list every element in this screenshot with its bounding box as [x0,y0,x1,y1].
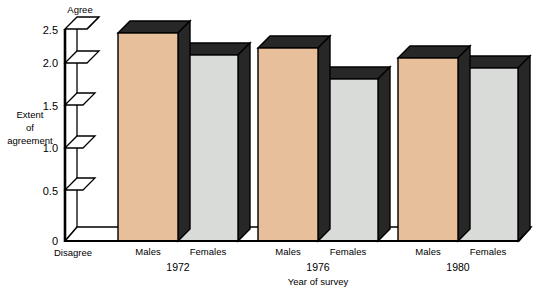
bar-front-face [258,48,318,241]
bar-label-females-1972: Females [190,246,227,257]
bar-side-face [518,56,530,241]
y-tick-label-2.0: 2.0 [43,57,58,69]
bar-chart: 2.5 2.0 1.5 1.0 0.5 0 Agree Disagree Ext… [0,0,541,288]
bar-side-face [178,21,190,241]
bar-front-face [118,33,178,241]
bar-group-1976 [258,36,390,241]
x-axis-labels: Males Females Males Females Males Female… [135,246,506,287]
bar-side-face [238,43,250,241]
bar-group-1972 [118,21,250,241]
y-tick-step-2.0 [65,51,99,63]
group-label-1972: 1972 [166,261,190,273]
y-axis-title-line-2: of [26,122,34,133]
bar-label-females-1976: Females [330,246,367,257]
y-axis-title-line-3: agreement [7,135,53,146]
y-tick-label-2.5: 2.5 [43,24,58,36]
bar-side-face [458,46,470,241]
bar-label-males-1972: Males [135,246,161,257]
y-tick-step-1.0 [65,136,95,148]
bar-label-males-1976: Males [275,246,301,257]
y-tick-step-0.5 [65,178,95,190]
bar-males-1972[interactable] [118,21,190,241]
bar-label-females-1980: Females [470,246,507,257]
y-tick-label-0: 0 [52,235,58,247]
y-axis: 2.5 2.0 1.5 1.0 0.5 0 Agree Disagree Ext… [7,4,99,258]
bar-males-1976[interactable] [258,36,330,241]
bar-males-1980[interactable] [398,46,470,241]
bar-front-face [398,58,458,241]
y-tick-label-1.5: 1.5 [43,100,58,112]
y-tick-label-0.5: 0.5 [43,185,58,197]
group-label-1980: 1980 [446,261,470,273]
x-axis-title: Year of survey [288,276,349,287]
y-axis-bottom-label: Disagree [54,247,92,258]
y-axis-title-line-1: Extent [17,109,44,120]
bar-side-face [378,67,390,241]
group-label-1976: 1976 [306,261,330,273]
y-tick-step-1.5 [65,93,95,105]
bar-label-males-1980: Males [415,246,441,257]
chart-canvas: 2.5 2.0 1.5 1.0 0.5 0 Agree Disagree Ext… [0,0,541,288]
y-axis-top-label: Agree [67,4,92,15]
bar-group-1980 [398,46,530,241]
bar-side-face [318,36,330,241]
